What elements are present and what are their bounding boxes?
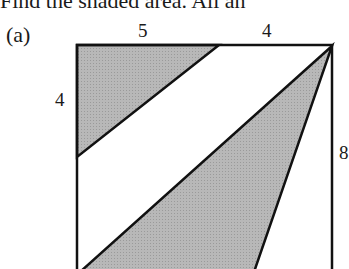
label-top-left-segment: 5 (138, 20, 148, 42)
shaded-triangle-top-left (77, 45, 219, 157)
label-left-segment: 4 (55, 89, 65, 111)
label-right-side: 8 (339, 142, 349, 164)
label-top-right-segment: 4 (262, 20, 272, 42)
